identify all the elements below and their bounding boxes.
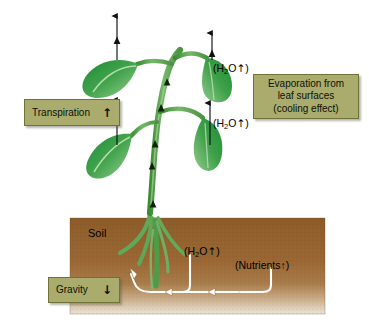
callout-evaporation-line2: leaf surfaces — [278, 90, 335, 101]
label-h2o-mid-leaf: (H2O↑) — [213, 117, 249, 133]
callout-evaporation-line1: Evaporation from — [268, 78, 344, 89]
up-arrow-icon: ↑ — [236, 62, 245, 74]
label-soil: Soil — [88, 227, 106, 239]
callout-evaporation-line3: (cooling effect) — [273, 103, 338, 114]
callout-evaporation: Evaporation from leaf surfaces (cooling … — [253, 74, 359, 119]
up-arrow-icon: ↑ — [207, 245, 216, 257]
diagram-canvas: (H2O↑) (H2O↑) Soil (H2O↑) (Nutrients↑) T… — [0, 0, 369, 331]
label-nutrients: (Nutrients↑) — [235, 259, 289, 271]
label-h2o-upper-leaf: (H2O↑) — [213, 62, 249, 78]
callout-transpiration-label: Transpiration — [32, 107, 90, 119]
callout-gravity-label: Gravity — [56, 284, 88, 296]
h2o-close: ) — [216, 245, 220, 257]
h2o-close: ) — [245, 117, 249, 129]
h2o-open: (H — [213, 117, 224, 129]
label-h2o-soil: (H2O↑) — [184, 245, 220, 261]
down-arrow-icon: ↓ — [102, 285, 112, 295]
h2o-open: (H — [213, 62, 224, 74]
h2o-close: ) — [245, 62, 249, 74]
up-arrow-icon: ↑ — [102, 108, 112, 118]
up-arrow-icon: ↑ — [236, 117, 245, 129]
h2o-open: (H — [184, 245, 195, 257]
callout-transpiration: Transpiration ↑ — [24, 99, 120, 126]
plant-stem — [131, 50, 207, 213]
callout-gravity: Gravity ↓ — [48, 277, 120, 303]
